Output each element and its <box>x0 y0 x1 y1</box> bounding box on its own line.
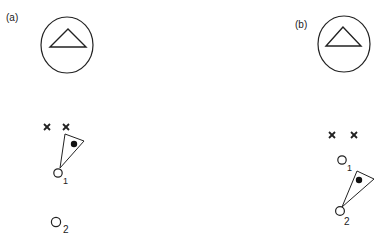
cross-marker-icon <box>44 124 50 130</box>
landmark-icon <box>41 17 93 73</box>
position-label: 1 <box>347 163 352 173</box>
diagram-svg: (a) 1 2 <box>0 0 391 236</box>
panel-b-label: (b) <box>295 19 307 30</box>
panel-b: (b) 1 2 <box>295 16 374 227</box>
position-2: 2 <box>336 207 350 227</box>
position-label: 1 <box>63 176 68 186</box>
cross-marker-icon <box>329 132 335 138</box>
cross-marker-icon <box>351 132 357 138</box>
position-label: 2 <box>63 224 69 235</box>
diagram-canvas: (a) 1 2 <box>0 0 391 236</box>
cross-marker-icon <box>63 124 69 130</box>
position-label: 2 <box>344 216 350 227</box>
landmark-icon <box>318 16 370 72</box>
position-1: 1 <box>54 169 68 186</box>
position-2: 2 <box>51 217 69 235</box>
panel-a-label: (a) <box>6 12 18 23</box>
position-1: 1 <box>338 156 352 173</box>
panel-a: (a) 1 2 <box>6 12 93 235</box>
viewing-cone-icon <box>342 171 374 207</box>
viewing-cone-icon <box>60 134 84 168</box>
